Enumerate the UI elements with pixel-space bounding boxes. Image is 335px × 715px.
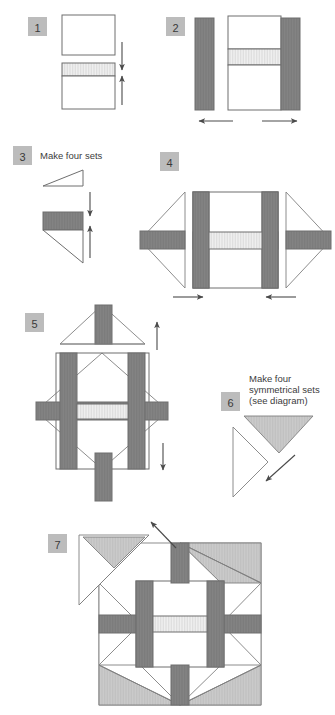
step-number-label: 6	[227, 397, 233, 409]
assembled-block-step7	[99, 543, 261, 705]
white-lower-square	[62, 76, 115, 109]
step-3-badge: 3	[13, 146, 32, 165]
step-number-label: 3	[19, 151, 25, 163]
inner-light-hatch-center	[153, 616, 207, 632]
step-1-badge: 1	[28, 17, 47, 36]
inner-vertical-bar-left	[136, 581, 153, 667]
inner-vertical-bar-right	[207, 581, 224, 667]
center-block-step4	[193, 192, 278, 288]
dark-bar-left-loose	[195, 18, 214, 110]
bottom-protruding-dark-bar	[95, 453, 112, 501]
diagram-canvas: 1 2 3	[0, 0, 335, 715]
dark-bar-right-attached	[281, 18, 300, 110]
light-hatch-strip	[62, 63, 115, 76]
dark-bar-right-overlay	[262, 192, 278, 288]
step-6-caption-line-1: Make four	[249, 373, 291, 384]
vertical-dark-bar-top	[171, 543, 189, 583]
light-hatch-center-strip	[228, 49, 281, 65]
step-3-caption: Make four sets	[40, 150, 103, 161]
inner-center-block-step7	[136, 581, 224, 667]
left-wing-dark-bar	[140, 231, 185, 249]
step-7-badge: 7	[48, 534, 67, 553]
step-6-caption-line-3: (see diagram)	[249, 395, 308, 406]
step-6-badge: 6	[221, 392, 240, 411]
step-number-label: 2	[172, 22, 178, 34]
right-wing-dark-bar	[286, 231, 331, 249]
white-bottom-block	[228, 65, 281, 110]
vertical-dark-bar-left	[60, 353, 77, 469]
quilt-assembly-diagram: 1 2 3	[0, 0, 335, 715]
vertical-dark-bar-bottom	[171, 665, 189, 705]
dark-bar-strip	[43, 212, 83, 230]
fabric-square-with-strip	[62, 63, 115, 109]
step-6-caption-line-2: symmetrical sets	[249, 384, 320, 395]
step-2-badge: 2	[166, 17, 185, 36]
dark-bar-left-overlay	[193, 192, 209, 288]
center-unit-step2	[228, 16, 300, 110]
light-hatch-center	[77, 404, 128, 419]
top-unit-dark-bar	[95, 305, 112, 344]
step-number-label: 1	[34, 22, 40, 34]
step-number-label: 4	[166, 157, 172, 169]
fabric-square-plain	[62, 15, 115, 55]
step-number-label: 7	[54, 539, 60, 551]
step-4-badge: 4	[160, 152, 179, 171]
corner-unit-top-right	[180, 543, 261, 583]
step-5-badge: 5	[25, 313, 44, 332]
step-number-label: 5	[31, 318, 37, 330]
white-top-block	[228, 16, 281, 49]
vertical-dark-bar-right	[128, 353, 145, 469]
